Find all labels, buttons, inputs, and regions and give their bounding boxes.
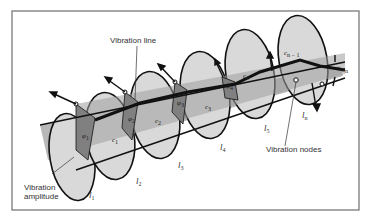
angle-label-n: φn <box>341 65 348 74</box>
vibration-node-1 <box>294 78 298 82</box>
vibration-amplitude-label-line2: amplitude <box>24 192 59 201</box>
inertia-label-4: l4 <box>220 143 226 155</box>
stiffness-label-3: c3 <box>205 103 211 112</box>
inertia-label-5: l5 <box>264 124 270 136</box>
angle-label-4: φ4 <box>226 82 233 91</box>
stiffness-label-n-1: cn − 1 <box>284 49 300 58</box>
stiffness-label-1: c1 <box>112 136 118 145</box>
stiffness-label-2: c2 <box>155 117 161 126</box>
torsional-vibration-diagram <box>0 0 372 222</box>
angle-label-2: φ2 <box>128 115 135 124</box>
angle-label-1: φ1 <box>82 132 89 141</box>
vibration-nodes-label: Vibration nodes <box>266 145 321 154</box>
vibration-amplitude-label-line1: Vibration <box>24 183 55 192</box>
inertia-label-3: l3 <box>178 161 184 173</box>
vibration-line-label: Vibration line <box>110 36 156 45</box>
inertia-label-2: l2 <box>136 177 142 189</box>
inertia-label-1: l1 <box>89 191 95 203</box>
angle-label-3: φ3 <box>177 99 184 108</box>
vibration-node-2 <box>320 82 324 86</box>
inertia-label-n: ln <box>302 111 308 123</box>
stiffness-label-4: c4 <box>243 72 249 81</box>
